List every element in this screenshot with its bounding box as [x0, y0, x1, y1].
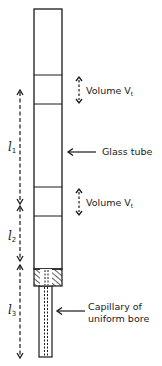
hatched-plug — [34, 269, 62, 286]
volume-lower-arrow — [76, 189, 82, 215]
upper-volume-band — [34, 75, 62, 104]
dimension-l2-label: l2 — [8, 229, 16, 244]
glass-tube-pointer-arrow — [68, 149, 96, 156]
volume-upper-label: Volume Vt — [86, 85, 134, 97]
dimension-l3-label: l3 — [8, 303, 16, 318]
dimension-l3-arrow — [17, 265, 23, 358]
dimension-l1-arrow — [17, 90, 23, 204]
dimension-l1-label: l1 — [8, 140, 16, 155]
volume-lower-label: Volume Vt — [86, 197, 134, 209]
capillary-label-line2: uniform bore — [88, 313, 149, 324]
capillary — [39, 286, 52, 357]
dimension-l2-arrow — [17, 206, 23, 261]
apparatus-diagram: Volume Vt Glass tube Volume Vt Capillary… — [0, 0, 162, 366]
capillary-label-line1: Capillary of — [88, 301, 143, 312]
glass-tube — [34, 9, 62, 269]
glass-tube-label: Glass tube — [102, 146, 153, 157]
volume-upper-arrow — [76, 77, 82, 103]
capillary-pointer-arrow — [57, 308, 85, 315]
lower-volume-band — [34, 187, 62, 216]
